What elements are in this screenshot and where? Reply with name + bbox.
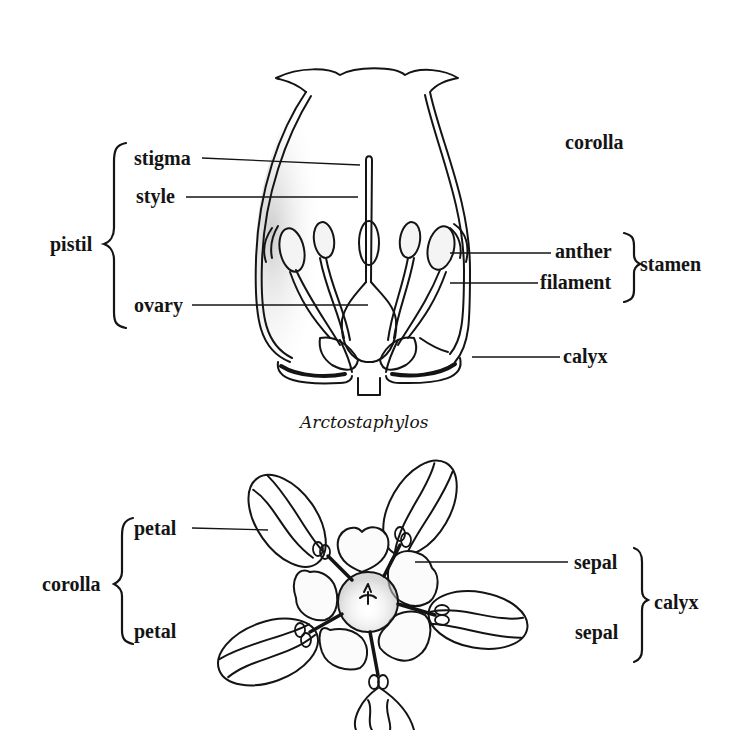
pistil-brace: [104, 143, 126, 328]
label-calyx: calyx: [563, 346, 607, 366]
label-filament: filament: [540, 272, 611, 292]
label-corolla-bottom: corolla: [42, 574, 101, 594]
flower-section-drawing: [255, 68, 470, 395]
label-anther: anther: [555, 241, 612, 261]
label-pistil: pistil: [50, 234, 92, 254]
label-corolla: corolla: [565, 132, 624, 152]
label-style: style: [136, 186, 175, 206]
leader-lines-top: [186, 158, 560, 357]
calyx-brace: [634, 548, 648, 662]
label-stigma: stigma: [134, 148, 191, 168]
stamen-brace: [624, 233, 640, 302]
figure-caption: Arctostaphylos: [300, 412, 429, 432]
corolla-brace: [114, 518, 133, 644]
label-sepal-top: sepal: [574, 552, 617, 572]
flower-top-view-drawing: [209, 448, 532, 730]
label-calyx-bottom: calyx: [654, 592, 698, 612]
flower-illustration: [0, 0, 733, 730]
label-petal-bottom: petal: [134, 621, 176, 641]
label-ovary: ovary: [134, 295, 183, 315]
label-sepal-bottom: sepal: [575, 622, 618, 642]
label-stamen: stamen: [640, 254, 701, 274]
label-petal-top: petal: [134, 518, 176, 538]
